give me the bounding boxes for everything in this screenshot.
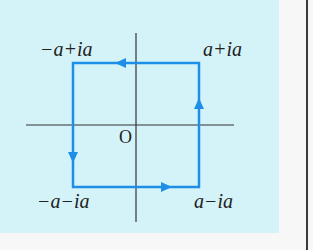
label-bottom-right: a−ia: [194, 190, 233, 213]
arrow-right-icon: [161, 182, 172, 192]
label-top-left: −a+ia: [40, 38, 93, 61]
arrow-up-icon: [194, 98, 204, 109]
label-top-right: a+ia: [203, 38, 242, 61]
arrow-down-icon: [68, 152, 78, 163]
origin-label: O: [119, 127, 132, 148]
arrow-left-icon: [115, 58, 126, 68]
label-bottom-left: −a−ia: [37, 190, 90, 213]
